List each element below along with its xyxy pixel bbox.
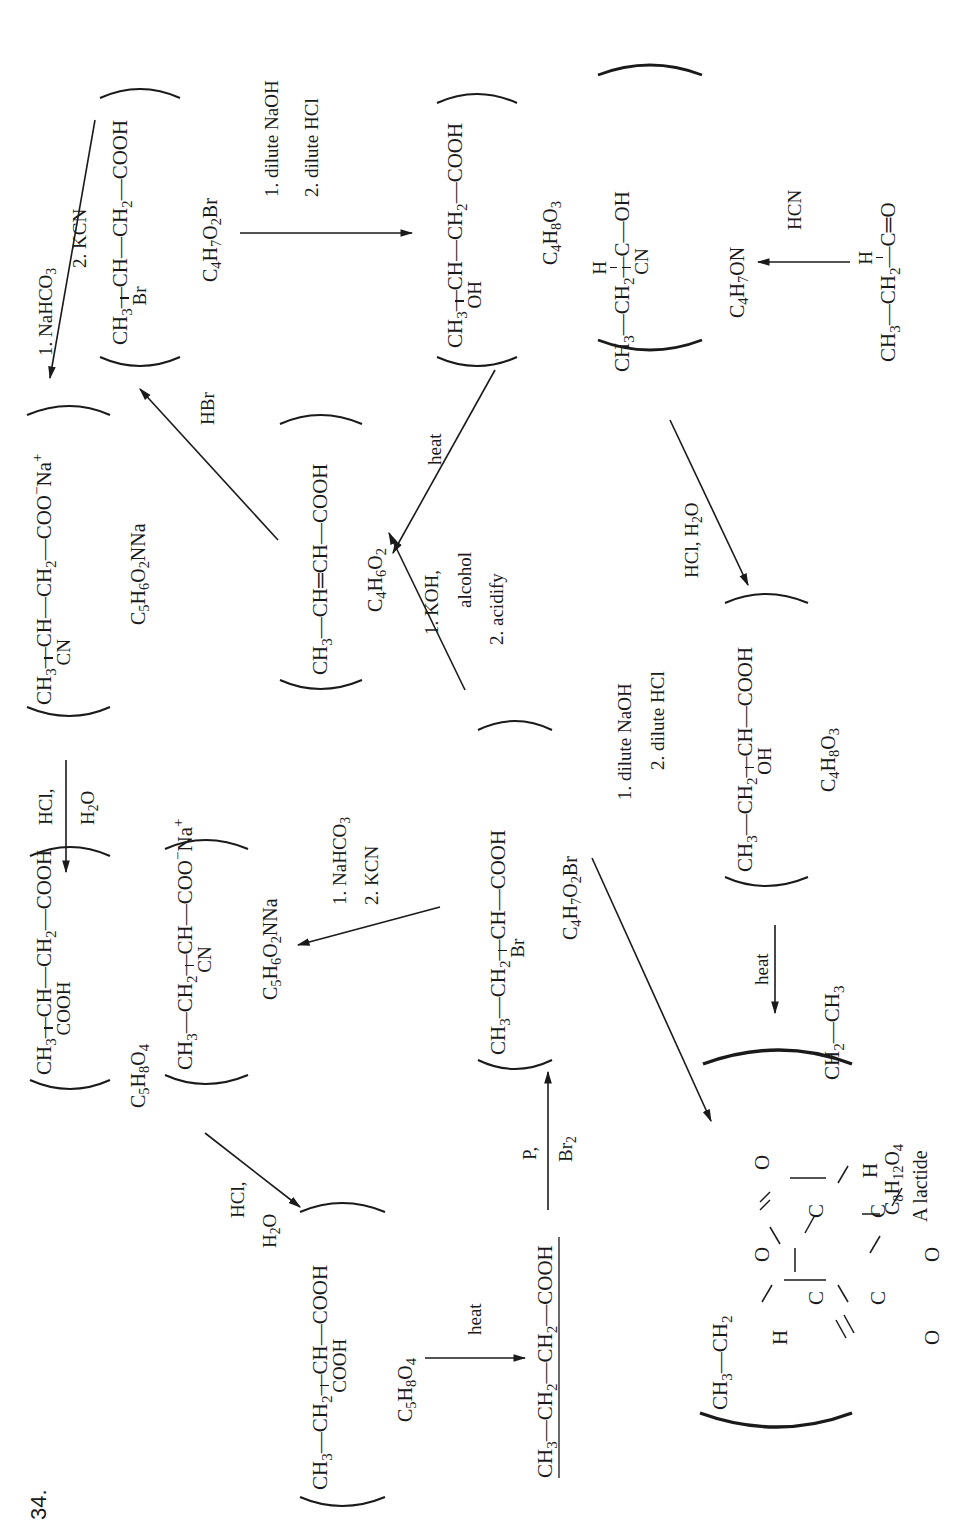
reagent-hcl-left: HCl, <box>36 789 55 825</box>
lactide-mf: C8H12O4 <box>882 1144 902 1215</box>
reagent-koh: 1. KOH, <box>422 570 441 635</box>
compound-c4: CH3—CH—CHOH2—COOH <box>445 123 466 348</box>
compound-c5: CH3—CH2—C—OHCNH <box>612 191 633 372</box>
lactide-o-carbonyl-top: O <box>752 1155 773 1170</box>
reagent-acidify: 2. acidify <box>487 573 506 645</box>
arrow-c9-to-c8 <box>298 907 440 945</box>
compound-c11-mf: C5H8O4 <box>395 1358 415 1422</box>
reagent-hcl-bottom: HCl, <box>228 1182 247 1218</box>
arrow-c9-to-c10 <box>592 858 711 1121</box>
arrow-c8-to-c11 <box>205 1133 300 1207</box>
reagent-dilute-naoh-top: 1. dilute NaOH <box>262 80 281 197</box>
compound-c6: CH3—CH2—C═OH <box>878 202 899 362</box>
reagent-hbr: HBr <box>198 392 217 425</box>
reagent-dilute-hcl-top: 2. dilute HCl <box>302 98 321 197</box>
compound-c1: CH3—CH—CHCOOH2—COOH <box>34 850 55 1075</box>
compound-c5-mf: C4H7ON <box>727 247 747 318</box>
compound-c9-mf: C4H7O2Br <box>560 856 580 940</box>
lactide-c-left: C <box>806 1291 827 1305</box>
compound-c10: CH3—CH2—CH—COOHOH <box>735 647 756 872</box>
lactide-c-right: C <box>806 1204 827 1218</box>
lactide-h-top: H <box>860 1163 881 1178</box>
reagent-dilute-hcl-mid: 2. dilute HCl <box>648 671 667 770</box>
compound-c3: CH3—CH—CHBr2—COOH <box>110 120 131 345</box>
lactide-o-ring-bottom: O <box>922 1247 943 1262</box>
lactide-h-bottom: H <box>770 1330 791 1345</box>
compound-c7-mf: C4H6O2 <box>365 548 385 612</box>
reagent-h2o-left: H2O <box>78 791 97 825</box>
lactide-o-ring-top: O <box>752 1247 773 1262</box>
lactide-caption: A lactide <box>910 1150 930 1222</box>
reagent-heat-top: heat <box>425 433 444 465</box>
reagent-kcn-mid: 2. KCN <box>362 846 381 905</box>
compound-c8: CH3—CH2—CH—COOCN−Na+ <box>175 818 196 1070</box>
compound-c7: CH3—CH═CH—COOH <box>310 464 331 675</box>
reagent-heat-mid: heat <box>752 953 771 985</box>
lactide-right-group: CH2—CH3 <box>822 986 843 1081</box>
compound-c9: CH3—CH2—CH—COOHBr <box>488 830 509 1055</box>
lactide-left-group: CH3—CH2 <box>710 1316 731 1411</box>
reagent-h2o-bottom: H2O <box>260 1214 279 1248</box>
reagent-br2: Br2 <box>556 1136 575 1162</box>
compound-c12: CH3—CH2—CH2—COOH <box>535 1245 556 1478</box>
compound-c11: CH3—CH2—CH—COOHCOOH <box>310 1265 331 1490</box>
reagent-p: P, <box>520 1147 539 1160</box>
reagent-alcohol: alcohol <box>455 552 474 608</box>
reagent-nahco3-mid: 1. NaHCO3 <box>330 817 349 905</box>
reagent-dilute-naoh-mid: 1. dilute NaOH <box>615 683 634 800</box>
compound-c10-mf: C4H8O3 <box>818 728 838 792</box>
reagent-kcn-top: 2. KCN <box>70 209 89 268</box>
reagent-heat-bottom: heat <box>465 1303 484 1335</box>
compound-c3-mf: C4H7O2Br <box>200 198 220 282</box>
lactide-o-carbonyl-bottom: O <box>922 1330 943 1345</box>
compound-c8-mf: C5H6O2NNa <box>260 898 280 1000</box>
compound-c1-mf: C5H8O4 <box>128 1044 148 1108</box>
problem-number: 34. <box>28 1489 50 1520</box>
reagent-nahco3-kcn-top: 1. NaHCO3 <box>36 268 55 356</box>
reagent-hcl-h2o-right: HCl, H2O <box>682 503 701 578</box>
reaction-scheme: #page2 .vt { position:absolute; white-sp… <box>0 0 957 1522</box>
compound-c2-mf: C5H6O2NNa <box>128 523 148 625</box>
compound-c2: CH3—CH—CHCN2—COO−Na+ <box>34 453 55 705</box>
reagent-hcn: HCN <box>785 190 804 230</box>
compound-c4-mf: C4H8O3 <box>540 201 560 265</box>
lactide-c-left-lower: C <box>868 1291 889 1305</box>
